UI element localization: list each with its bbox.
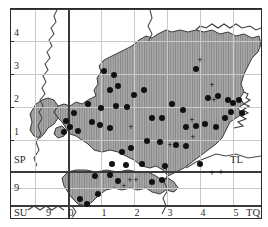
x-tick-label: 1 bbox=[102, 207, 107, 218]
grid-square-tl: TL bbox=[230, 154, 243, 165]
grid-square-su: SU bbox=[14, 207, 27, 218]
y-tick-label: 2 bbox=[14, 93, 19, 104]
x-tick-label: 3 bbox=[168, 207, 173, 218]
y-tick-9-upper: 9 bbox=[14, 182, 19, 193]
y-tick-label: 1 bbox=[14, 126, 19, 137]
y-tick-label: 3 bbox=[14, 60, 19, 71]
axis-tick-labels-layer: 0123454321SPTLSUTQ99 bbox=[0, 0, 268, 227]
y-tick-label: 4 bbox=[14, 27, 19, 38]
grid-square-sp: SP bbox=[14, 154, 26, 165]
x-tick-label: 0 bbox=[69, 207, 74, 218]
x-tick-9: 9 bbox=[46, 207, 51, 218]
distribution-map-figure: 0123454321SPTLSUTQ99 bbox=[0, 0, 268, 227]
x-tick-label: 2 bbox=[135, 207, 140, 218]
x-tick-label: 4 bbox=[201, 207, 206, 218]
grid-square-tq: TQ bbox=[246, 207, 260, 218]
x-tick-label: 5 bbox=[234, 207, 239, 218]
